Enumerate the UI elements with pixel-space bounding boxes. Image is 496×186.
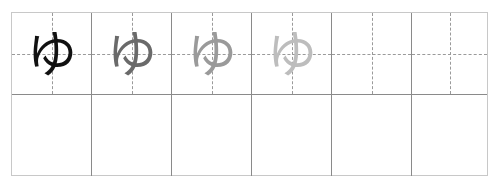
trace-character: ゆ [92, 13, 171, 94]
empty-character-slot [332, 95, 411, 176]
blank-practice-cell[interactable] [332, 95, 412, 176]
free-practice-row [12, 95, 487, 176]
blank-practice-cell[interactable] [172, 95, 252, 176]
blank-practice-cell[interactable] [92, 95, 172, 176]
empty-character-slot [412, 13, 487, 94]
empty-character-slot [252, 95, 331, 176]
trace-character: ゆ [172, 13, 251, 94]
practice-cell-trace-3[interactable]: ゆ [252, 13, 332, 94]
practice-cell-model[interactable]: ゆ [12, 13, 92, 94]
writing-practice-grid: ゆ ゆ ゆ ゆ [11, 12, 488, 176]
practice-cell-blank-guided-2[interactable] [412, 13, 487, 94]
blank-practice-cell[interactable] [12, 95, 92, 176]
model-character: ゆ [12, 13, 91, 94]
empty-character-slot [92, 95, 171, 176]
practice-cell-trace-1[interactable]: ゆ [92, 13, 172, 94]
trace-character: ゆ [252, 13, 331, 94]
empty-character-slot [412, 95, 487, 176]
blank-practice-cell[interactable] [412, 95, 487, 176]
empty-character-slot [172, 95, 251, 176]
practice-cell-blank-guided-1[interactable] [332, 13, 412, 94]
empty-character-slot [12, 95, 91, 176]
empty-character-slot [332, 13, 411, 94]
blank-practice-cell[interactable] [252, 95, 332, 176]
tracing-row: ゆ ゆ ゆ ゆ [12, 13, 487, 95]
practice-cell-trace-2[interactable]: ゆ [172, 13, 252, 94]
